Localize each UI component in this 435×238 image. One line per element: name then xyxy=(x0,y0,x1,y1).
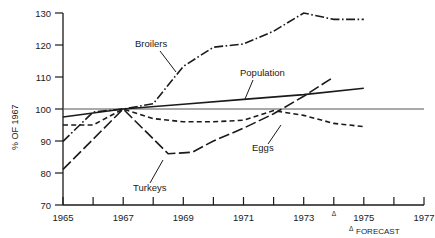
forecast-note-text: FORECAST xyxy=(356,227,400,236)
x-tick-label: 1967 xyxy=(113,212,134,223)
y-tick-label: 70 xyxy=(40,200,51,211)
y-tick-label: 120 xyxy=(35,40,51,51)
y-tick-label: 110 xyxy=(36,72,51,83)
y-axis-ticks xyxy=(55,13,63,205)
series-label-population-text: Population xyxy=(240,67,285,78)
x-tick-label: 1977 xyxy=(413,212,434,223)
line-chart: % OF 1967 130 120 110 100 90 80 70 xyxy=(0,0,435,238)
forecast-delta-marker: Δ xyxy=(332,210,337,217)
y-axis-tick-labels: 130 120 110 100 90 80 70 xyxy=(35,8,51,211)
forecast-note: Δ FORECAST xyxy=(349,225,400,236)
series-label-turkeys: Turkeys xyxy=(133,160,167,193)
forecast-note-delta: Δ xyxy=(349,225,354,232)
x-axis-tick-labels: 1965 1967 1969 1971 1973 1975 1977 xyxy=(52,212,434,223)
x-tick-label: 1965 xyxy=(52,212,73,223)
x-tick-label: 1973 xyxy=(293,212,314,223)
series-label-eggs: Eggs xyxy=(252,125,281,153)
series-line-population xyxy=(63,88,364,117)
y-axis-title: % OF 1967 xyxy=(10,104,20,150)
x-tick-label: 1969 xyxy=(173,212,194,223)
series-label-broilers: Broilers xyxy=(135,38,176,72)
y-tick-label: 90 xyxy=(40,136,51,147)
chart-container: % OF 1967 130 120 110 100 90 80 70 xyxy=(0,0,435,238)
series-line-turkeys xyxy=(63,77,334,169)
x-axis-ticks xyxy=(63,197,424,205)
x-tick-label: 1975 xyxy=(353,212,374,223)
x-tick-label: 1971 xyxy=(233,212,254,223)
series-label-broilers-text: Broilers xyxy=(135,38,167,49)
series-label-eggs-text: Eggs xyxy=(252,142,274,153)
series-label-population: Population xyxy=(240,67,285,99)
y-tick-label: 130 xyxy=(35,8,51,19)
y-tick-label: 80 xyxy=(40,168,51,179)
y-tick-label: 100 xyxy=(35,104,51,115)
series-label-turkeys-text: Turkeys xyxy=(133,182,167,193)
